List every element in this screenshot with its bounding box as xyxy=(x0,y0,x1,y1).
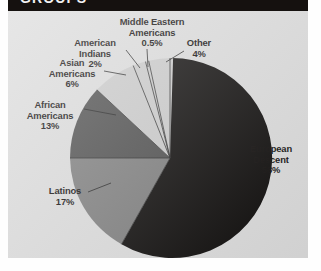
figure-root: GROUPS xyxy=(0,0,321,271)
pie-label-asian-americans: Asian Americans 6% xyxy=(36,58,108,90)
pie-label-value: 58% xyxy=(236,165,306,176)
pie-label-line2: Americans xyxy=(27,110,74,121)
chart-panel: Middle Eastern Americans 0.5% American I… xyxy=(8,11,308,258)
pie-label-line1: European xyxy=(250,143,292,154)
pie-label-line2: Descent xyxy=(253,154,288,165)
pie-label-line1: Middle Eastern xyxy=(120,16,185,27)
pie-label-line1: American xyxy=(74,37,116,48)
pie-label-other: Other 4% xyxy=(176,38,222,59)
pie-label-latinos: Latinos 17% xyxy=(34,186,96,207)
pie-label-line1: Asian xyxy=(60,57,85,68)
pie-label-value: 17% xyxy=(34,197,96,208)
page-title: GROUPS xyxy=(20,0,87,5)
pie-label-value: 6% xyxy=(36,79,108,90)
pie-label-african-americans: African Americans 13% xyxy=(11,100,89,132)
pie-label-line1: Latinos xyxy=(49,185,81,196)
pie-label-line1: African xyxy=(34,99,65,110)
pie-label-line2: Americans xyxy=(49,68,96,79)
pie-label-european-descent: European Descent 58% xyxy=(236,144,306,176)
pie-label-line2: Americans xyxy=(129,27,176,38)
pie-label-line1: Other xyxy=(187,37,211,48)
pie-label-value: 13% xyxy=(11,121,89,132)
pie-label-value: 4% xyxy=(176,49,222,60)
figure-title-bar: GROUPS xyxy=(8,0,308,11)
